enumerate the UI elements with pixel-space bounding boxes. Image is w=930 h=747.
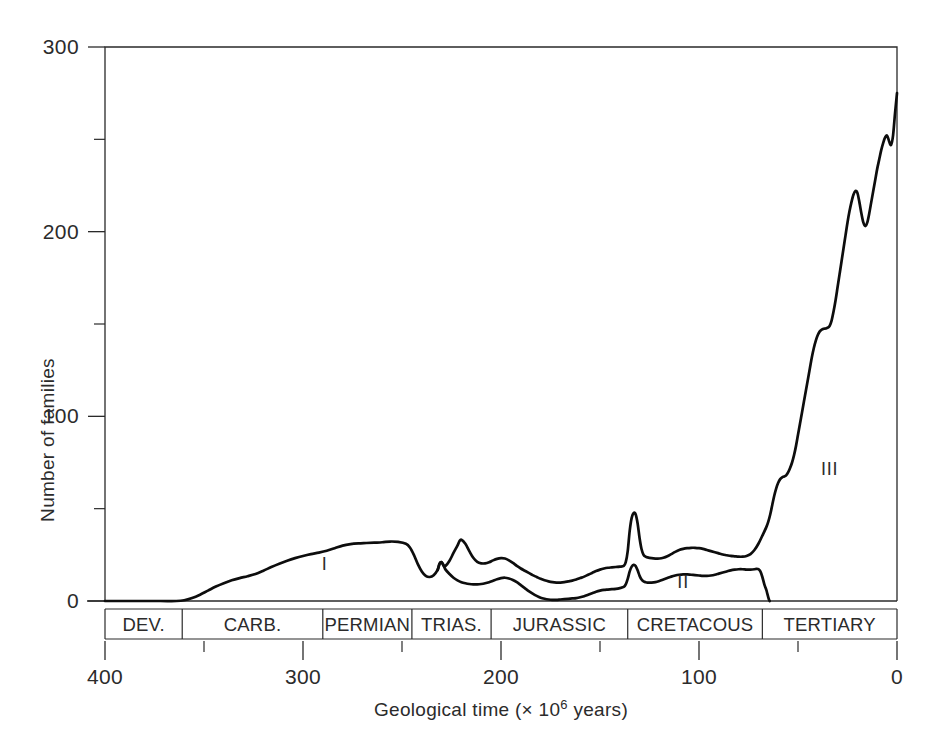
x-tick-label: 100 — [681, 665, 717, 688]
period-label-trias: TRIAS. — [421, 614, 482, 635]
period-label-carb: CARB. — [224, 614, 282, 635]
x-axis-title: Geological time (× 106 years) — [374, 697, 628, 720]
period-label-cretacous: CRETACOUS — [637, 614, 754, 635]
x-tick-label: 0 — [891, 665, 903, 688]
y-tick-label: 0 — [67, 589, 79, 612]
x-tick-label: 400 — [87, 665, 123, 688]
x-axis-title-tail: years) — [568, 699, 628, 720]
plot-frame-border — [105, 47, 897, 601]
x-tick-label: 300 — [285, 665, 321, 688]
y-axis-title: Number of families — [37, 358, 58, 522]
plot-frame — [105, 47, 897, 601]
x-axis-title-main: Geological time (× 10 — [374, 699, 560, 720]
curve-series-i — [105, 93, 897, 601]
data-curves — [105, 93, 897, 601]
y-tick-label: 200 — [43, 220, 79, 243]
y-axis-tick-labels: 0100200300 — [43, 35, 79, 612]
period-label-jurassic: JURASSIC — [513, 614, 606, 635]
chart-svg: 0100200300 4003002001000 DEV.CARB.PERMIA… — [0, 0, 930, 747]
region-label-ii: II — [677, 572, 689, 592]
geological-diversity-chart: 0100200300 4003002001000 DEV.CARB.PERMIA… — [0, 0, 930, 747]
x-tick-label: 200 — [483, 665, 519, 688]
period-label-tertiary: TERTIARY — [783, 614, 875, 635]
y-tick-label: 300 — [43, 35, 79, 58]
region-label-iii: III — [821, 459, 838, 479]
region-label-i: I — [322, 554, 328, 574]
x-axis-title-exponent: 6 — [560, 697, 568, 712]
period-label-dev: DEV. — [122, 614, 164, 635]
x-axis-tick-labels: 4003002001000 — [87, 665, 903, 688]
y-axis-ticks — [88, 47, 105, 601]
x-axis-ticks — [105, 641, 897, 660]
period-label-permian: PERMIAN — [324, 614, 410, 635]
